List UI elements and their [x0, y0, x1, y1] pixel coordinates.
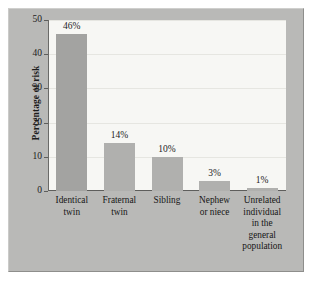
- y-axis-tick-mark: [44, 54, 48, 55]
- x-axis-label-line: Sibling: [144, 195, 190, 207]
- y-axis-title: Percentage of risk: [31, 43, 41, 163]
- x-axis-label-line: Nephew: [192, 195, 238, 207]
- bar: [104, 143, 135, 191]
- x-axis-label-line: individual: [239, 207, 285, 219]
- x-axis-category-label: Nephewor niece: [192, 195, 238, 218]
- x-axis-label-line: twin: [97, 207, 143, 219]
- bar: [199, 181, 230, 191]
- x-axis-label-line: Fraternal: [97, 195, 143, 207]
- x-axis-label-line: twin: [49, 207, 95, 219]
- x-axis-label-line: in the: [239, 218, 285, 230]
- y-axis-tick-label: 0: [20, 185, 42, 195]
- x-axis-category-label: Fraternaltwin: [97, 195, 143, 218]
- bar: [247, 188, 278, 191]
- x-axis-label-line: or niece: [192, 207, 238, 219]
- x-axis-label-line: Unrelated: [239, 195, 285, 207]
- x-axis-category-label: Identicaltwin: [49, 195, 95, 218]
- x-axis-category-label: Unrelatedindividualin thegeneralpopulati…: [239, 195, 285, 253]
- bar-value-label: 10%: [142, 144, 192, 154]
- bar: [152, 157, 183, 191]
- bar-value-label: 3%: [190, 168, 240, 178]
- y-axis-tick-label: 50: [20, 14, 42, 24]
- y-axis-tick-mark: [44, 191, 48, 192]
- x-axis-category-label: Sibling: [144, 195, 190, 207]
- bar-value-label: 1%: [237, 175, 287, 185]
- bar-value-label: 14%: [94, 130, 144, 140]
- x-axis-label-line: Identical: [49, 195, 95, 207]
- bar: [56, 34, 87, 191]
- y-axis-tick-mark: [44, 157, 48, 158]
- bar-value-label: 46%: [47, 21, 97, 31]
- x-axis-label-line: general: [239, 230, 285, 242]
- x-axis-label-line: population: [239, 241, 285, 253]
- y-axis-tick-mark: [44, 123, 48, 124]
- y-axis-tick-mark: [44, 88, 48, 89]
